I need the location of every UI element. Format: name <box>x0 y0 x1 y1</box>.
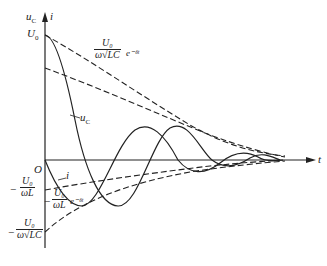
y-axis-arrow-icon <box>42 12 48 22</box>
i-leader-line <box>58 178 66 180</box>
upper-envelope-outer <box>45 35 285 156</box>
i-curve-label: i <box>66 170 69 181</box>
damped-oscillation-diagram: uC i t O U0 U₀ ω√LC e⁻ᵟᵗ uC i − U₀ ωL − … <box>0 0 327 266</box>
neg-sign-2: − <box>44 195 50 207</box>
i-curve <box>45 127 280 206</box>
upper-envelope-label: U₀ ω√LC <box>94 38 121 60</box>
origin-label: O <box>34 164 42 175</box>
lower-envelope-exp: e⁻ᵟᵗ <box>70 196 83 206</box>
neg-u0-wl-label: U₀ ωL <box>20 176 35 198</box>
neg-sign-1: − <box>10 183 16 195</box>
y-axis-label-uc: uC <box>26 11 36 25</box>
x-axis-label-t: t <box>318 154 321 165</box>
neg-u0-wlc-label: U₀ ω√LC <box>16 218 43 240</box>
diagram-canvas <box>0 0 327 266</box>
y-axis-label-i: i <box>50 11 53 22</box>
upper-envelope-exp: e⁻ᵟᵗ <box>126 48 139 58</box>
neg-sign-3: − <box>8 226 14 238</box>
uc-curve-label: uC <box>80 112 90 126</box>
u0-label: U0 <box>27 28 38 42</box>
x-axis-arrow-icon <box>306 157 316 163</box>
lower-envelope-label: U₀ ωL <box>52 188 67 210</box>
